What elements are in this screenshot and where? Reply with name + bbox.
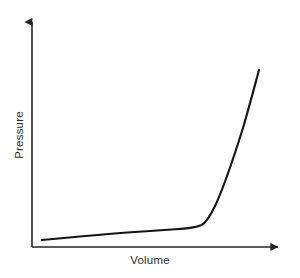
chart-figure: Pressure Volume <box>0 0 300 278</box>
y-axis-label-container: Pressure <box>0 128 40 142</box>
chart-canvas <box>0 0 300 278</box>
y-axis-label: Pressure <box>14 111 26 159</box>
pressure-volume-curve <box>42 70 259 240</box>
x-axis-label: Volume <box>0 255 300 267</box>
